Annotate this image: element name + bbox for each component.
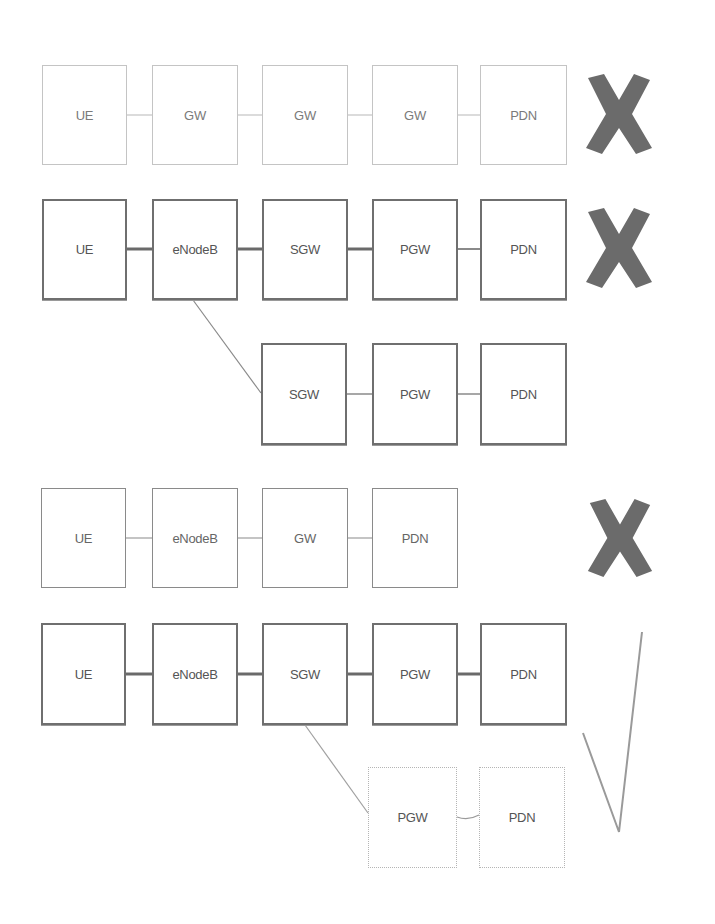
enodeb-sgw-branch-line [193,300,261,393]
row4-node-ue: UE [41,488,126,588]
node-label: GW [294,108,316,123]
row4-node-enodeb: eNodeB [152,488,238,588]
node-label: UE [76,242,93,257]
node-label: SGW [289,387,319,402]
row5-node-enodeb: eNodeB [152,623,238,725]
node-label: PGW [397,810,427,825]
row1-node-gw-1: GW [152,65,238,165]
row2-node-enodeb: eNodeB [152,199,238,300]
row3-node-pdn: PDN [480,343,567,445]
row1-node-ue: UE [42,65,127,165]
check-icon-row5 [575,625,655,840]
node-label: SGW [290,242,320,257]
node-label: PDN [510,667,537,682]
cross-icon-row4 [584,495,656,581]
row1-node-gw-2: GW [262,65,348,165]
row5-node-pgw: PGW [372,623,458,725]
node-label: UE [76,108,93,123]
row2-node-ue: UE [42,199,127,300]
row3-node-pgw: PGW [372,343,458,445]
node-label: PGW [400,242,430,257]
cross-icon-row2 [582,206,656,290]
row2-node-pgw: PGW [372,199,458,300]
row1-node-pdn: PDN [480,65,567,165]
node-label: UE [75,667,92,682]
node-label: eNodeB [172,531,217,546]
row5-node-ue: UE [41,623,126,725]
row3-node-sgw: SGW [261,343,347,445]
node-label: GW [184,108,206,123]
node-label: eNodeB [172,242,217,257]
cross-icon-row1 [582,72,656,156]
node-label: PDN [509,810,536,825]
node-label: PGW [400,667,430,682]
node-label: PDN [510,108,537,123]
node-label: eNodeB [172,667,217,682]
node-label: PDN [510,242,537,257]
row5-node-sgw: SGW [262,623,348,725]
row2-node-sgw: SGW [262,199,348,300]
network-architecture-diagram: UE GW GW GW PDN UE eNodeB SGW PGW PDN SG… [0,0,715,924]
row1-node-gw-3: GW [372,65,458,165]
row6-connector [457,815,479,819]
node-label: PGW [400,387,430,402]
row6-node-pdn-optional: PDN [479,767,565,868]
row2-node-pdn: PDN [480,199,567,300]
row5-node-pdn: PDN [480,623,567,725]
row4-node-pdn: PDN [372,488,458,588]
node-label: GW [294,531,316,546]
row6-node-pgw-optional: PGW [368,767,457,868]
node-label: GW [404,108,426,123]
node-label: PDN [402,531,429,546]
node-label: PDN [510,387,537,402]
node-label: SGW [290,667,320,682]
sgw-pgw-branch-line [305,725,368,813]
row4-node-gw: GW [262,488,348,588]
node-label: UE [75,531,92,546]
